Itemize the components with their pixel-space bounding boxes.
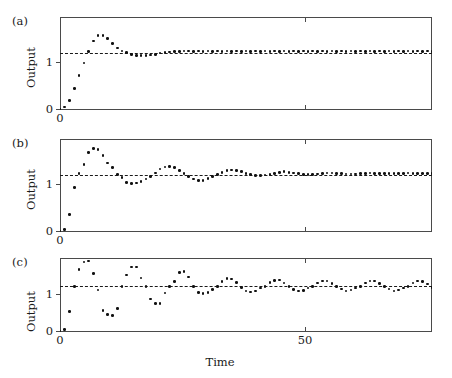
data-point (83, 163, 86, 166)
data-point (121, 285, 124, 288)
data-point (63, 328, 66, 331)
data-point (388, 288, 391, 291)
data-point (311, 173, 314, 176)
panel-c-ytick-label-1: 1 (36, 287, 53, 301)
data-point (68, 213, 71, 216)
data-point (116, 47, 119, 50)
data-point (140, 180, 143, 183)
data-point (416, 50, 419, 53)
data-point (397, 289, 400, 292)
data-point (230, 278, 233, 281)
data-point (249, 50, 252, 53)
data-point (145, 54, 148, 57)
data-point (183, 270, 186, 273)
data-point (83, 261, 86, 264)
data-point (78, 74, 81, 77)
data-point (354, 50, 357, 53)
data-point (168, 285, 171, 288)
data-point (426, 50, 429, 53)
panel-a-tag: (a) (12, 14, 28, 28)
panel-a-xtick-label-0: 0 (50, 111, 70, 125)
data-point (102, 154, 105, 157)
data-point (197, 50, 200, 53)
data-point (216, 50, 219, 53)
data-point (383, 50, 386, 53)
data-point (259, 50, 262, 53)
data-point (87, 50, 90, 53)
data-point (173, 50, 176, 53)
figure-xlabel: Time (185, 355, 255, 369)
data-point (149, 298, 152, 301)
data-point (116, 307, 119, 310)
data-point (307, 50, 310, 53)
data-point (154, 53, 157, 56)
data-point (431, 50, 432, 53)
panel-c-xtick-label-50: 50 (292, 333, 318, 347)
data-point (178, 271, 181, 274)
data-point (292, 288, 295, 291)
data-point (354, 287, 357, 290)
data-point (73, 186, 76, 189)
data-point (292, 172, 295, 175)
data-point (378, 282, 381, 285)
data-point (164, 166, 167, 169)
data-point (92, 147, 95, 150)
data-point (359, 285, 362, 288)
data-point (278, 279, 281, 282)
data-point (412, 172, 415, 175)
data-point (273, 50, 276, 53)
data-point (278, 171, 281, 174)
data-point (397, 172, 400, 175)
data-point (383, 285, 386, 288)
data-point (269, 50, 272, 53)
data-point (288, 285, 291, 288)
data-point (135, 266, 138, 269)
data-point (73, 87, 76, 90)
data-point (216, 285, 219, 288)
data-point (192, 50, 195, 53)
data-point (421, 280, 424, 283)
data-point (135, 54, 138, 57)
data-point (259, 287, 262, 290)
data-point (426, 172, 429, 175)
data-point (164, 51, 167, 54)
data-point (149, 175, 152, 178)
data-point (197, 291, 200, 294)
data-point (412, 282, 415, 285)
data-point (302, 50, 305, 53)
data-point (249, 173, 252, 176)
data-point (68, 310, 71, 313)
data-point (369, 280, 372, 283)
data-point (106, 313, 109, 316)
data-point (397, 50, 400, 53)
data-point (321, 280, 324, 283)
data-point (335, 172, 338, 175)
data-point (168, 165, 171, 168)
data-point (230, 169, 233, 172)
data-point (254, 50, 257, 53)
data-point (111, 314, 114, 317)
data-point (202, 179, 205, 182)
data-point (431, 172, 432, 175)
data-point (183, 172, 186, 175)
data-point (340, 288, 343, 291)
data-point (87, 260, 90, 263)
data-point (288, 50, 291, 53)
data-point (254, 290, 257, 293)
data-point (154, 302, 157, 305)
data-point (297, 172, 300, 175)
data-point (264, 174, 267, 177)
data-point (321, 172, 324, 175)
data-point (135, 182, 138, 185)
data-point (221, 171, 224, 174)
data-point (245, 172, 248, 175)
data-point (87, 151, 90, 154)
data-point (173, 280, 176, 283)
data-point (278, 50, 281, 53)
data-point (283, 170, 286, 173)
data-point (125, 274, 128, 277)
data-point (249, 291, 252, 294)
data-point (364, 282, 367, 285)
data-point (426, 283, 429, 286)
data-point (149, 54, 152, 57)
